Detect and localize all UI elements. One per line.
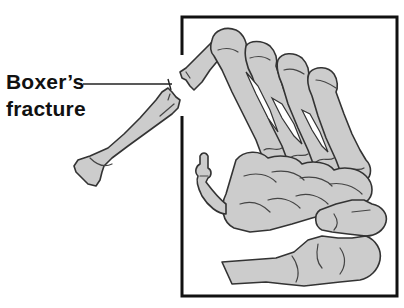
hand-skeleton-diagram — [0, 0, 404, 308]
fractured-metacarpal-fragment — [74, 88, 180, 186]
forearm-bone — [222, 236, 380, 286]
pinky-finger-tip — [196, 153, 226, 214]
